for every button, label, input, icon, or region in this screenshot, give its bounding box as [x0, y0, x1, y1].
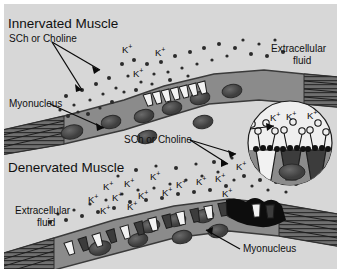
k-ion-label-upper: K+ — [133, 67, 143, 79]
figure-root: Innervated Muscle SCh or Choline Extrace… — [0, 0, 341, 273]
title-denervated-muscle: Denervated Muscle — [8, 161, 124, 175]
k-ion-label-lower: K+ — [236, 160, 246, 172]
denervated-fiber-striation-left — [4, 238, 54, 269]
k-ion-label-lower: K+ — [196, 175, 206, 187]
inset-myonucleus — [279, 164, 305, 180]
k-ion-label-lower: K+ — [222, 187, 232, 199]
innervated-fiber-striation-left — [4, 116, 64, 156]
innervated-fiber-striation-right — [304, 74, 337, 108]
diagram-panel: Innervated Muscle SCh or Choline Extrace… — [4, 4, 337, 269]
k-ion-label-lower: K+ — [112, 191, 122, 203]
k-ion-label-lower: K+ — [88, 193, 98, 205]
k-ion-label-lower: K+ — [100, 204, 110, 216]
k-ion-label-upper: K+ — [155, 46, 165, 58]
label-extracellular-fluid-top: Extracellular — [271, 44, 326, 54]
denervated-fiber-striation-right — [279, 204, 337, 248]
label-sch-or-choline-top: SCh or Choline — [9, 34, 77, 44]
k-ion-label-lower: K+ — [124, 177, 134, 189]
k-ion-label-lower: K+ — [162, 186, 172, 198]
k-ion-label-inset: K+ — [270, 111, 280, 123]
k-ion-label-upper: K+ — [122, 43, 132, 55]
k-ion-label-lower: K+ — [215, 172, 225, 184]
label-myonucleus-bottom: Myonucleus — [243, 244, 296, 254]
label-extracellular-fluid-bottom: Extracellular — [15, 206, 70, 216]
k-ion-label-lower: K+ — [150, 170, 160, 182]
k-ion-label-inset: K+ — [307, 109, 317, 121]
k-ion-label-lower: K+ — [176, 178, 186, 190]
label-myonucleus-top: Myonucleus — [9, 99, 62, 109]
label-extracellular-fluid-top-line2: fluid — [293, 56, 311, 66]
title-innervated-muscle: Innervated Muscle — [8, 17, 118, 31]
k-ion-label-lower: K+ — [138, 189, 148, 201]
k-ion-label-inset: K+ — [286, 110, 296, 122]
label-extracellular-fluid-bottom-line2: fluid — [37, 218, 55, 228]
k-ion-label-lower: K+ — [127, 200, 137, 212]
label-sch-or-choline-mid: SCh or Choline — [124, 135, 192, 145]
myonucleus — [192, 114, 214, 130]
